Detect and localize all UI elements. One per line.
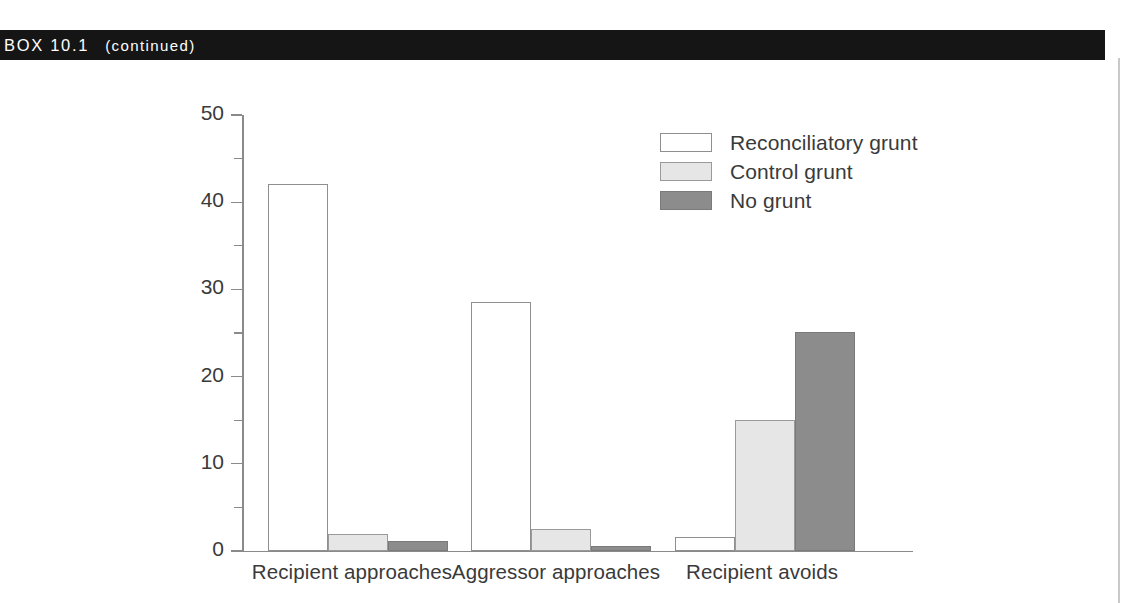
y-tick-label: 0 [176,537,224,561]
y-tick-minor [234,245,242,246]
legend-label-reconciliatory-grunt: Reconciliatory grunt [730,131,918,155]
bar-2-1 [735,420,795,551]
y-tick-major [231,289,242,290]
page-canvas: BOX 10.1 (continued) Percentage of post-… [0,0,1130,603]
scan-top-margin [0,0,1130,22]
legend-label-no-grunt: No grunt [730,189,811,213]
legend-swatch-icon-control-grunt [660,162,712,181]
bar-chart: Percentage of post-conflict samples 0102… [0,60,1118,603]
bar-1-2 [591,546,651,551]
y-tick-label: 30 [176,275,224,299]
bar-2-2 [795,332,855,551]
legend-swatch-icon-reconciliatory-grunt [660,133,712,152]
y-tick-major [231,376,242,377]
bar-0-0 [268,184,328,551]
y-tick-label: 20 [176,363,224,387]
legend-swatch-icon-no-grunt [660,191,712,210]
y-tick-label: 10 [176,450,224,474]
bar-1-0 [471,302,531,551]
legend-label-control-grunt: Control grunt [730,160,853,184]
bar-0-1 [328,534,388,551]
y-tick-major [231,463,242,464]
legend-item-reconciliatory-grunt: Reconciliatory grunt [660,128,918,157]
y-tick-major [231,114,242,115]
y-tick-major [231,550,242,551]
bar-1-1 [531,529,591,551]
y-axis-line [242,115,244,552]
box-header-band: BOX 10.1 (continued) [0,30,1105,60]
scan-right-edge [1118,58,1120,603]
bar-0-2 [388,541,448,551]
x-category-label-2: Recipient avoids [622,560,902,584]
chart-legend: Reconciliatory grunt Control grunt No gr… [660,128,918,215]
box-continued-label: (continued) [105,37,195,54]
legend-item-no-grunt: No grunt [660,186,918,215]
y-tick-major [231,202,242,203]
y-tick-minor [234,507,242,508]
y-tick-minor [234,420,242,421]
y-tick-minor [234,332,242,333]
box-number-label: BOX 10.1 [4,36,89,55]
y-tick-minor [234,158,242,159]
y-tick-label: 50 [176,101,224,125]
bar-2-0 [675,537,735,551]
y-tick-label: 40 [176,188,224,212]
legend-item-control-grunt: Control grunt [660,157,918,186]
